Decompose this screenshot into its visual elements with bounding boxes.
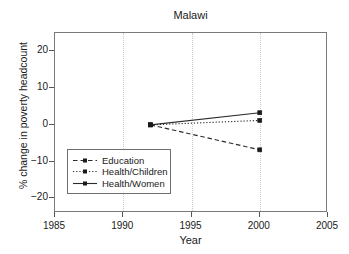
dotted-line-sample-icon [72, 166, 98, 177]
series-health-women-line [151, 113, 260, 125]
plot-inner: Education Health/Children [55, 33, 326, 211]
x-tick-mark [259, 212, 260, 217]
legend-label-health-children: Health/Children [102, 166, 167, 177]
y-tick-label: −20 [4, 192, 48, 202]
x-tick-label: 1990 [97, 220, 147, 231]
legend-label-health-women: Health/Women [102, 178, 165, 189]
y-tick-label: 20 [4, 45, 48, 55]
series-health-children-marker-end [258, 118, 262, 122]
x-tick-label: 2000 [234, 220, 284, 231]
chart-title: Malawi [54, 9, 327, 22]
x-tick-label: 1995 [166, 220, 216, 231]
legend-item-health-children: Health/Children [72, 166, 165, 177]
y-tick-mark [49, 161, 54, 162]
x-tick-label: 1985 [29, 220, 79, 231]
solid-line-sample-icon [72, 178, 98, 189]
legend-item-health-women: Health/Women [72, 178, 165, 189]
x-tick-mark [54, 212, 55, 217]
legend-label-education: Education [102, 155, 144, 166]
x-axis-title: Year [54, 234, 327, 246]
chart-figure: Malawi % change in poverty headcount [0, 0, 349, 254]
y-tick-mark [49, 197, 54, 198]
y-tick-label: 10 [4, 82, 48, 92]
series-education [149, 123, 262, 152]
series-education-marker-end [258, 148, 262, 152]
y-tick-mark [49, 124, 54, 125]
series-health-women-marker-end [258, 111, 262, 115]
x-tick-label: 2005 [302, 220, 349, 231]
y-tick-label: −10 [4, 156, 48, 166]
chart-legend: Education Health/Children [67, 149, 171, 194]
series-health-women [149, 111, 262, 127]
y-tick-mark [49, 50, 54, 51]
plot-area: Education Health/Children [54, 32, 327, 212]
series-education-line [151, 125, 260, 150]
x-tick-mark [327, 212, 328, 217]
y-tick-mark [49, 87, 54, 88]
legend-item-education: Education [72, 155, 165, 166]
x-tick-mark [122, 212, 123, 217]
dashed-line-sample-icon [72, 155, 98, 166]
y-tick-label: 0 [4, 119, 48, 129]
x-tick-mark [191, 212, 192, 217]
series-health-women-marker-start [149, 123, 153, 127]
